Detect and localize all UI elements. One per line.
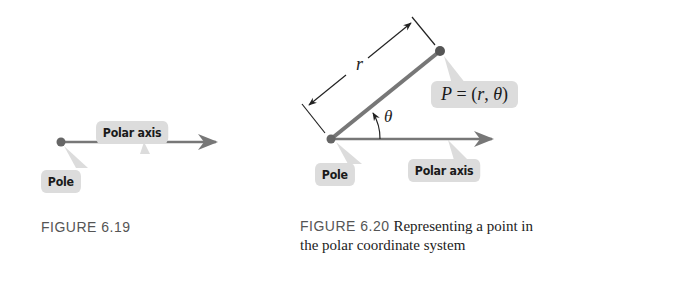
point-callout-pointer	[444, 56, 466, 84]
point-name: P	[441, 84, 452, 104]
point-p	[435, 46, 445, 56]
pole-callout-pointer	[64, 146, 88, 168]
point-eq: = (	[452, 84, 477, 104]
figure-6-19-caption: FIGURE 6.19	[41, 218, 131, 237]
caption-text-line2: the polar coordinate system	[300, 237, 465, 253]
polar-axis-label: Polar axis	[408, 159, 480, 182]
polar-axis-callout-pointer	[448, 140, 468, 160]
figure-number: FIGURE 6.19	[41, 219, 131, 235]
point-comma: ,	[484, 84, 493, 104]
dimension-arrow-upper	[368, 23, 411, 58]
pole-callout-pointer	[336, 142, 362, 164]
dimension-tick-lower	[302, 104, 325, 133]
figure-6-20-caption: FIGURE 6.20 Representing a point in the …	[300, 217, 533, 255]
pole-point	[57, 138, 66, 147]
dimension-tick-upper	[412, 17, 435, 45]
pole-label: Pole	[41, 170, 81, 193]
figure-number: FIGURE 6.20	[300, 218, 390, 234]
angle-arc	[373, 113, 380, 139]
polar-axis-label: Polar axis	[96, 121, 168, 144]
point-theta: θ	[493, 84, 502, 104]
pole-point	[327, 135, 336, 144]
theta-label: θ	[384, 107, 392, 127]
point-close: )	[502, 84, 508, 104]
caption-text: Representing a point in	[393, 218, 533, 234]
pole-label: Pole	[315, 163, 355, 186]
point-label: P = (r, θ)	[431, 81, 518, 108]
r-label: r	[356, 54, 363, 75]
dimension-arrow-lower	[309, 75, 346, 105]
